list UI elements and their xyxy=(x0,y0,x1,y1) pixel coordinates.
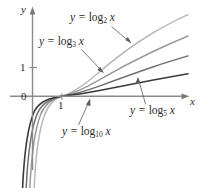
annotation-log3-base: 3 xyxy=(72,40,76,49)
y-axis-label: y xyxy=(21,4,26,15)
annotation-log5: y = log5 x xyxy=(130,105,175,118)
x-tick-label-1: 1 xyxy=(58,100,64,111)
x-axis-label: x xyxy=(190,96,195,107)
annotation-log3: y = log3 x xyxy=(39,36,84,49)
annotation-log10: y = log10 x xyxy=(62,126,111,139)
annotation-log2-log: log xyxy=(89,11,104,23)
annotation-log3-arg: x xyxy=(79,35,84,47)
annotation-log3-prefix: y = xyxy=(39,35,58,47)
annotation-log5-base: 5 xyxy=(163,109,167,118)
y-tick-label-1: 1 xyxy=(20,62,26,73)
annotation-log2-base: 2 xyxy=(103,16,107,25)
x-axis-arrowhead xyxy=(182,93,190,99)
leader-log10-arrowhead xyxy=(86,99,90,107)
leader-log3 xyxy=(82,50,101,70)
plot-canvas xyxy=(0,0,202,188)
annotation-log10-log: log xyxy=(81,125,96,137)
annotation-log2-arg: x xyxy=(110,11,115,23)
annotation-log2: y = log2 x xyxy=(70,12,115,25)
annotation-log2-prefix: y = xyxy=(70,11,89,23)
leader-log10 xyxy=(79,103,89,126)
annotation-log10-prefix: y = xyxy=(62,125,81,137)
logarithm-curves-figure: y x 1 0 1 y = log2 x y = log3 x y = log1… xyxy=(0,0,202,188)
annotation-log5-arg: x xyxy=(170,104,175,116)
annotation-log5-log: log xyxy=(149,104,164,116)
y-axis-arrowhead xyxy=(30,7,36,15)
leader-log2 xyxy=(112,27,129,41)
annotation-log5-prefix: y = xyxy=(130,104,149,116)
annotation-log10-arg: x xyxy=(106,125,111,137)
annotation-log3-log: log xyxy=(58,35,73,47)
leader-log5 xyxy=(139,81,146,104)
leader-log2-arrowhead xyxy=(125,37,131,44)
annotation-log10-base: 10 xyxy=(95,130,102,139)
origin-label: 0 xyxy=(21,91,27,102)
